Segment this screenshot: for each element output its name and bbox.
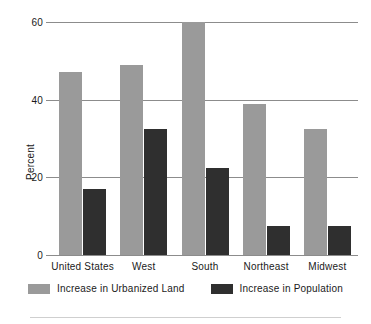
x-axis-line <box>46 255 358 256</box>
bar <box>267 226 290 255</box>
bar <box>120 65 143 255</box>
y-axis-tick-label: 40 <box>31 94 43 105</box>
bar-chart: Percent 0204060 United StatesWestSouthNo… <box>0 0 371 324</box>
legend-label: Increase in Population <box>240 283 343 294</box>
x-axis-tick-label: Northeast <box>244 261 289 272</box>
legend-item[interactable]: Increase in Urbanized Land <box>28 283 185 294</box>
legend-item[interactable]: Increase in Population <box>211 283 343 294</box>
y-axis-tick-label: 60 <box>31 17 43 28</box>
bar-group <box>182 22 229 255</box>
bar-group <box>59 22 106 255</box>
y-axis-tick <box>46 22 52 23</box>
bar <box>304 129 327 255</box>
x-axis-tick-label: United States <box>51 261 114 272</box>
x-axis-tick-label: South <box>191 261 218 272</box>
bar <box>328 226 351 255</box>
plot-area: 0204060 <box>52 22 358 255</box>
x-axis-tick-label: Midwest <box>308 261 346 272</box>
legend-swatch <box>28 284 50 294</box>
legend-label: Increase in Urbanized Land <box>57 283 185 294</box>
legend-swatch <box>211 284 233 294</box>
bar <box>243 104 266 255</box>
y-axis-tick-label: 0 <box>37 250 43 261</box>
bar <box>182 22 205 255</box>
legend: Increase in Urbanized LandIncrease in Po… <box>0 283 371 294</box>
x-axis-tick-label: West <box>132 261 155 272</box>
bar <box>59 72 82 255</box>
bar-group <box>243 22 290 255</box>
bar <box>144 129 167 255</box>
footer-divider <box>30 317 341 318</box>
y-axis-tick <box>46 177 52 178</box>
y-axis-tick-label: 20 <box>31 172 43 183</box>
bar <box>83 189 106 255</box>
bar-group <box>304 22 351 255</box>
bar-group <box>120 22 167 255</box>
y-axis-tick <box>46 100 52 101</box>
bar <box>206 168 229 255</box>
